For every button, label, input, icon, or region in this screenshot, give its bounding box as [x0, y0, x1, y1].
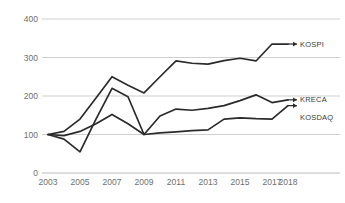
arrow-head-icon [293, 103, 297, 108]
gridlines [42, 19, 340, 173]
x-tick-label: 2011 [167, 177, 186, 187]
x-axis-tick-labels: 200320052007200920112013201520172018 [39, 177, 298, 187]
series-line-kosdaq [48, 106, 288, 136]
x-tick-label: 2015 [231, 177, 250, 187]
y-axis-tick-labels: 0100200300400 [24, 14, 38, 178]
arrow-head-icon [293, 97, 297, 102]
x-tick-label: 2018 [279, 177, 298, 187]
x-tick-label: 2003 [39, 177, 58, 187]
y-tick-label: 100 [24, 130, 38, 140]
series-label-kospi: KOSPI [300, 40, 324, 49]
y-tick-label: 300 [24, 53, 38, 63]
x-tick-label: 2005 [71, 177, 90, 187]
series-lines [48, 44, 288, 152]
y-tick-label: 400 [24, 14, 38, 24]
arrow-head-icon [293, 42, 297, 47]
chart-canvas: 0100200300400 20032005200720092011201320… [0, 0, 345, 203]
x-tick-label: 2013 [199, 177, 218, 187]
series-label-kreca: KRECA [300, 95, 327, 104]
series-leader-arrows [288, 42, 297, 108]
y-tick-label: 200 [24, 91, 38, 101]
x-tick-label: 2009 [135, 177, 154, 187]
y-tick-label: 0 [33, 168, 38, 178]
line-chart: 0100200300400 20032005200720092011201320… [0, 0, 345, 203]
series-line-kreca [48, 88, 288, 152]
x-tick-label: 2007 [103, 177, 122, 187]
series-label-kosdaq: KOSDAQ [300, 113, 333, 122]
series-labels: KOSPIKRECAKOSDAQ [300, 40, 333, 123]
